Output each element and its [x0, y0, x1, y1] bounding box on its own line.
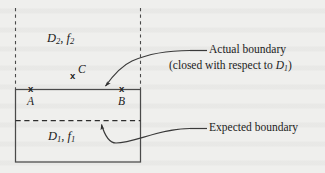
callout-expected-boundary: Expected boundary [209, 122, 298, 134]
callout-actual-boundary-line1: Actual boundary [209, 44, 286, 56]
cross-marker-b: x [119, 84, 124, 94]
region-label-lower: D1, f1 [48, 130, 75, 144]
region-lower-domain-symbol: D [48, 129, 57, 143]
region-label-upper: D2, f2 [47, 32, 74, 46]
diagram-vector-layer [0, 0, 325, 173]
region-lower-function-subscript: 1 [71, 134, 75, 144]
point-label-a: A [27, 96, 34, 108]
point-label-b: B [118, 96, 125, 108]
arrow-expected-boundary [102, 125, 191, 144]
callout-actual-boundary-line2: (closed with respect to D1) [169, 60, 292, 73]
cross-marker-c: x [70, 71, 75, 81]
callout-line2-prefix: (closed with respect to [169, 59, 276, 71]
point-label-c: C [78, 64, 86, 76]
region-upper-function-subscript: 2 [70, 36, 74, 46]
callout-line2-suffix: ) [288, 59, 292, 71]
region-upper-domain-symbol: D [47, 31, 56, 45]
boundary-diagram-figure: D2, f2 D1, f1 x A x C x B Actual boundar… [0, 0, 325, 173]
cross-marker-a: x [28, 84, 33, 94]
callout-line2-symbol: D [276, 59, 284, 71]
